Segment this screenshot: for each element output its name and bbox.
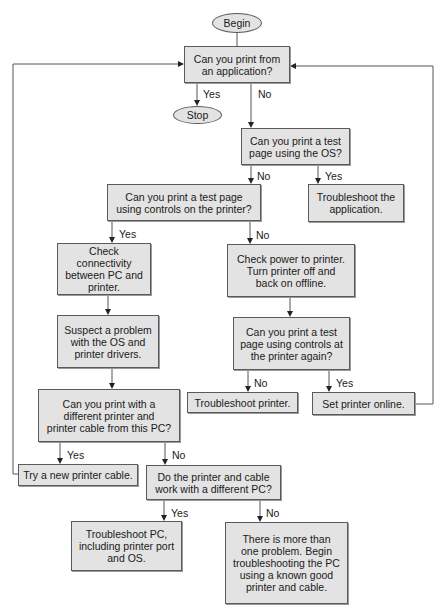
action-suspect-os-drivers: Suspect a problem with the OS and printe… xyxy=(57,315,159,368)
decision-print-test-page-printer-controls: Can you print a test page using controls… xyxy=(107,184,261,221)
action-troubleshoot-printer: Troubleshoot printer. xyxy=(187,392,298,413)
edge-label-again-yes: Yes xyxy=(336,377,353,389)
edge-label-diff-pc-yes: Yes xyxy=(171,507,188,519)
decision-print-from-application: Can you print from an application? xyxy=(184,46,290,83)
edge-label-os-no: No xyxy=(257,170,270,182)
action-troubleshoot-pc: Troubleshoot PC, including printer port … xyxy=(71,521,182,571)
edge-label-diff-printer-no: No xyxy=(172,449,185,461)
decision-print-test-page-os: Can you print a test page using the OS? xyxy=(241,128,350,165)
action-set-printer-online: Set printer online. xyxy=(312,392,415,415)
edge-label-os-yes: Yes xyxy=(325,170,342,182)
action-check-power: Check power to printer. Turn printer off… xyxy=(227,244,355,297)
flowchart-canvas: Begin Stop Can you print from an applica… xyxy=(0,0,445,615)
decision-different-pc: Do the printer and cable work with a dif… xyxy=(146,465,281,500)
action-troubleshoot-application: Troubleshoot the application. xyxy=(308,184,404,222)
decision-different-printer-cable: Can you print with a different printer a… xyxy=(38,389,180,442)
action-more-than-one-problem: There is more than one problem. Begin tr… xyxy=(225,522,348,604)
edge-label-again-no: No xyxy=(254,377,267,389)
decision-print-test-page-again: Can you print a test page using controls… xyxy=(233,317,350,370)
edge-label-diff-printer-yes: Yes xyxy=(67,449,84,461)
edge-label-controls-yes: Yes xyxy=(119,228,136,240)
action-try-new-cable: Try a new printer cable. xyxy=(18,464,138,486)
edge-label-diff-pc-no: No xyxy=(266,507,279,519)
begin-terminal: Begin xyxy=(212,13,262,33)
edge-label-app-yes: Yes xyxy=(203,88,220,100)
action-check-connectivity: Check connectivity between PC and printe… xyxy=(57,243,151,295)
connector-lines xyxy=(0,0,445,615)
stop-terminal: Stop xyxy=(173,106,222,124)
edge-label-app-no: No xyxy=(258,88,271,100)
edge-label-controls-no: No xyxy=(256,229,269,241)
